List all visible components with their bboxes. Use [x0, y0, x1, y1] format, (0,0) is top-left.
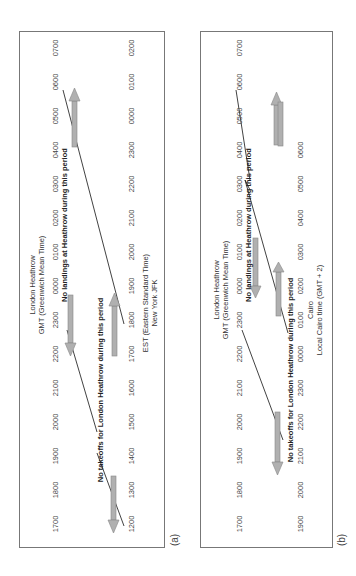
panel-a-bottom-title-2: New York JFK [150, 279, 159, 326]
tick: 1400 [127, 448, 136, 465]
tick: 0700 [235, 40, 244, 57]
tick: 2000 [51, 414, 60, 431]
tick: 0500 [235, 108, 244, 125]
tick: 0500 [296, 176, 305, 193]
tick: 0000 [51, 278, 60, 295]
tick: 2200 [127, 176, 136, 193]
tick: 0500 [51, 108, 60, 125]
tick: 0200 [51, 210, 60, 227]
panel-a-top-title-2: GMT (Greenwich Mean Time) [37, 236, 46, 335]
tick: 2200 [296, 414, 305, 431]
tick: 0600 [296, 142, 305, 159]
panel-b-top-title-1: London Heathrow [212, 260, 221, 319]
tick: 0100 [51, 244, 60, 261]
tick: 0600 [235, 74, 244, 91]
panel-a-bottom-title-1: EST (Eastern Standard Time) [141, 254, 150, 352]
arrow-a-takeoff-gap [108, 476, 119, 533]
arrow-a-landing-gap [65, 295, 76, 356]
tick: 2100 [127, 210, 136, 227]
tick: 0000 [296, 346, 305, 363]
arrow-b-return [273, 262, 284, 316]
panel-b-bottom-title-2: Local Cairo time (GMT + 2) [315, 265, 324, 356]
tick: 2100 [235, 380, 244, 397]
tick: 0400 [296, 210, 305, 227]
arrow-a-landing-end [69, 88, 80, 147]
panel-a-no-landings-note: No landings at Heathrow during this peri… [60, 148, 69, 302]
panel-a-label: (a) [169, 534, 180, 546]
tick: 1900 [296, 516, 305, 533]
tick: 1700 [127, 346, 136, 363]
tick: 1900 [235, 448, 244, 465]
panel-b-no-takeoffs-note: No takeoffs for London Heathrow during t… [286, 278, 295, 463]
tick: 1500 [127, 414, 136, 431]
tick: 0200 [235, 210, 244, 227]
tick: 0300 [51, 176, 60, 193]
tick: 0200 [296, 278, 305, 295]
tick: 0600 [51, 74, 60, 91]
tick: 0300 [235, 176, 244, 193]
tick: 1800 [51, 482, 60, 499]
tick: 2100 [51, 380, 60, 397]
panel-b-top-title-2: GMT (Greenwich Mean Time) [221, 241, 230, 340]
tick: 2200 [51, 346, 60, 363]
tick: 0100 [127, 74, 136, 91]
panel-b-bottom-title-1: Cairo [306, 301, 315, 319]
tick: 1800 [127, 312, 136, 329]
tick: 0100 [296, 312, 305, 329]
tick: 0000 [127, 108, 136, 125]
tick: 2300 [235, 312, 244, 329]
panel-a-no-takeoffs-note: No takeoffs for London Heathrow during t… [96, 298, 105, 483]
panel-a-top-title-1: London Heathrow [28, 255, 37, 314]
panel-b-no-landings-note: No landings at Heathrow during this peri… [244, 148, 253, 302]
tick: 2300 [296, 380, 305, 397]
tick: 2000 [127, 244, 136, 261]
tick: 1700 [51, 516, 60, 533]
tick: 2200 [235, 346, 244, 363]
panel-b-label: (b) [336, 534, 347, 546]
tick: 1200 [127, 516, 136, 533]
tick: 1300 [127, 482, 136, 499]
tick: 1900 [127, 278, 136, 295]
arrow-a-takeoff-end [109, 293, 120, 356]
tick: 0400 [235, 142, 244, 159]
arrow-b-takeoff-gap [272, 412, 283, 475]
tick: 2300 [51, 312, 60, 329]
tick: 1700 [235, 516, 244, 533]
tick: 2000 [296, 482, 305, 499]
tick: 2100 [296, 448, 305, 465]
tick: 0700 [51, 40, 60, 57]
tick: 0000 [235, 278, 244, 295]
tick: 1600 [127, 380, 136, 397]
arrow-b-landing-end [278, 102, 283, 146]
tick: 1900 [51, 448, 60, 465]
tick: 2000 [235, 414, 244, 431]
tick: 0400 [51, 142, 60, 159]
tick: 2300 [127, 142, 136, 159]
tick: 0300 [296, 244, 305, 261]
tick: 0100 [235, 244, 244, 261]
tick: 1800 [235, 482, 244, 499]
tick: 0200 [127, 40, 136, 57]
